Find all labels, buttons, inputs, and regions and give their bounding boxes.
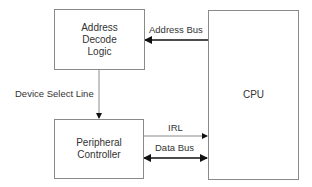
peripheral-controller-box: Peripheral Controller	[54, 119, 144, 179]
address-decode-label-2: Decode	[81, 34, 118, 46]
data-bus-label: Data Bus	[155, 142, 194, 153]
device-select-line-label: Device Select Line	[15, 88, 94, 99]
address-bus-label: Address Bus	[149, 24, 203, 35]
address-decode-label-1: Address	[81, 22, 118, 34]
irl-label: IRL	[168, 122, 183, 133]
cpu-label: CPU	[243, 89, 264, 101]
peripheral-label-2: Controller	[76, 149, 122, 161]
cpu-box: CPU	[208, 10, 299, 180]
peripheral-label-1: Peripheral	[76, 137, 122, 149]
address-decode-label-3: Logic	[81, 46, 118, 58]
address-decode-logic-box: Address Decode Logic	[54, 9, 145, 70]
